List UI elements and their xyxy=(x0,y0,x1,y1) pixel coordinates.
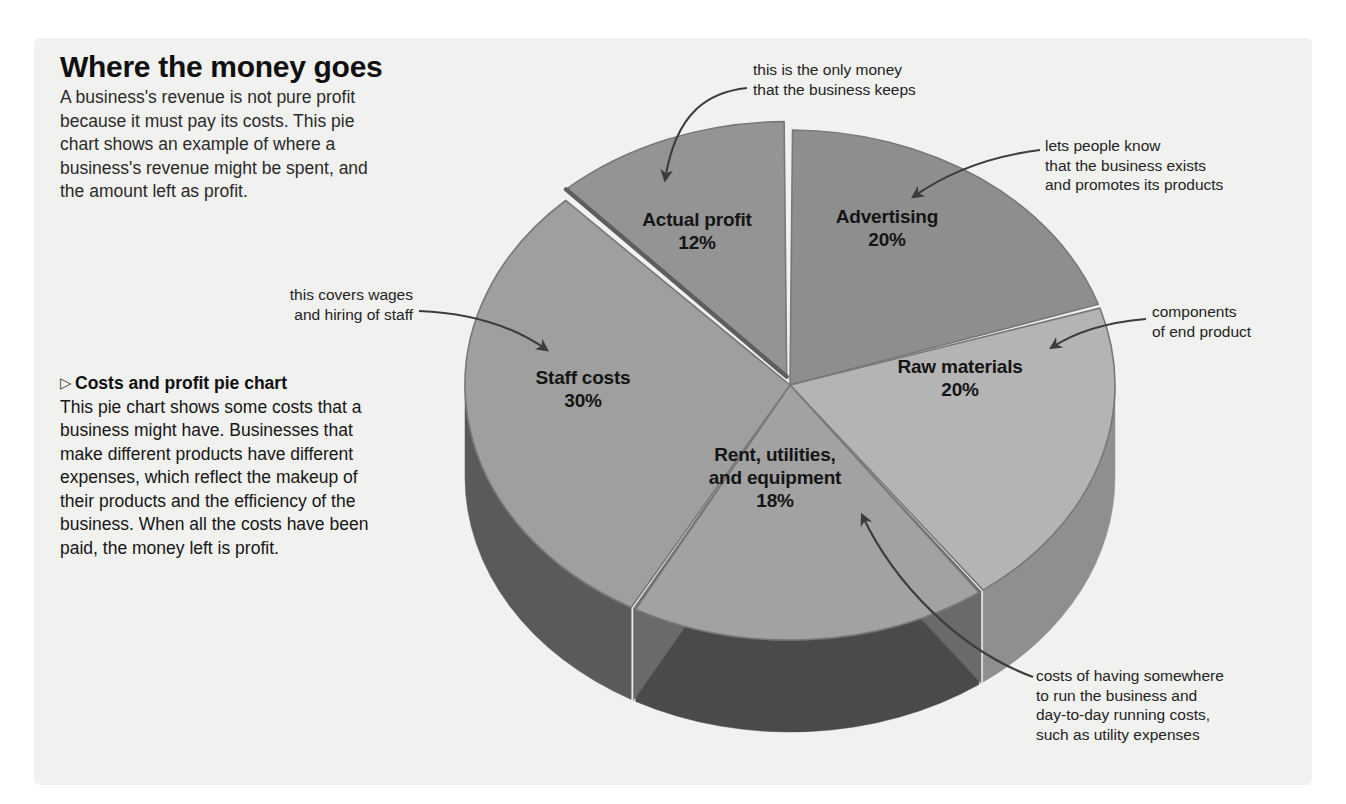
annotation-actual-profit: this is the only money that the business… xyxy=(753,60,1023,99)
slice-label-raw-materials-name: Raw materials xyxy=(897,356,1022,377)
slice-label-staff-costs-name: Staff costs xyxy=(536,367,631,388)
caption-heading: Costs and profit pie chart xyxy=(75,373,287,393)
slice-label-actual-profit: Actual profit 12% xyxy=(602,208,792,254)
slice-label-actual-profit-value: 12% xyxy=(602,231,792,254)
slice-label-rent-line1: Rent, utilities, xyxy=(714,444,835,465)
slice-label-rent-value: 18% xyxy=(670,489,880,512)
triangle-marker-icon: ▷ xyxy=(60,371,72,395)
caption-body: This pie chart shows some costs that a b… xyxy=(60,397,368,558)
slice-label-rent: Rent, utilities, and equipment 18% xyxy=(670,443,880,512)
slice-label-staff-costs: Staff costs 30% xyxy=(488,366,678,412)
slice-label-actual-profit-name: Actual profit xyxy=(642,209,751,230)
annotation-raw-materials: components of end product xyxy=(1152,302,1342,341)
slice-label-raw-materials-value: 20% xyxy=(850,378,1070,401)
slice-label-advertising: Advertising 20% xyxy=(787,205,987,251)
caption-block: ▷Costs and profit pie chart This pie cha… xyxy=(60,372,390,560)
slice-label-advertising-name: Advertising xyxy=(836,206,938,227)
slice-label-raw-materials: Raw materials 20% xyxy=(850,355,1070,401)
annotation-rent-utilities: costs of having somewhere to run the bus… xyxy=(1036,666,1336,744)
annotation-staff-costs: this covers wages and hiring of staff xyxy=(198,285,413,324)
page-title: Where the money goes xyxy=(60,50,382,84)
slice-label-rent-line2: and equipment xyxy=(670,466,880,489)
intro-paragraph: A business's revenue is not pure profit … xyxy=(60,86,390,204)
annotation-advertising: lets people know that the business exist… xyxy=(1045,136,1335,195)
slice-label-advertising-value: 20% xyxy=(787,228,987,251)
slice-label-staff-costs-value: 30% xyxy=(488,389,678,412)
